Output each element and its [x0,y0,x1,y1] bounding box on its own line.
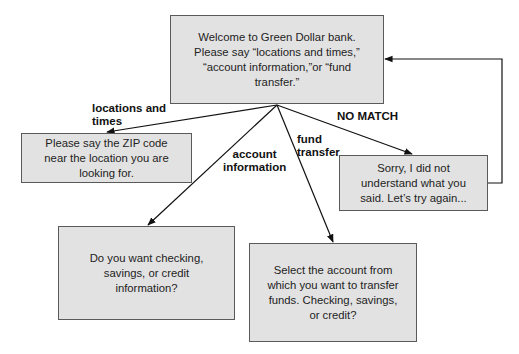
node-nomatch: Sorry, I did not understand what you sai… [339,155,488,211]
node-nomatch-text: Sorry, I did not understand what you sai… [360,161,467,206]
edge-label-locations: locations and times [92,102,166,128]
node-transfer-text: Select the account from which you want t… [267,263,398,323]
edge-label-account: account information [223,148,286,174]
node-welcome-text: Welcome to Green Dollar bank. Please say… [194,30,360,90]
node-zip-text: Please say the ZIP code near the locatio… [44,136,168,181]
edge-label-nomatch: NO MATCH [337,110,398,123]
node-zip: Please say the ZIP code near the locatio… [21,133,192,183]
node-welcome: Welcome to Green Dollar bank. Please say… [170,15,384,104]
node-account: Do you want checking, savings, or credit… [58,226,235,320]
node-account-text: Do you want checking, savings, or credit… [90,251,204,296]
node-transfer: Select the account from which you want t… [249,243,417,342]
edge-label-fund: fund transfer [297,133,340,159]
